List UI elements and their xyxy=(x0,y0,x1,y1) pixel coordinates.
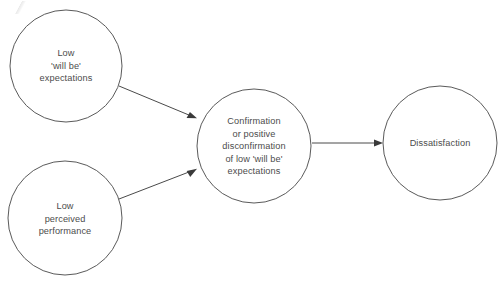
diagram-graphics xyxy=(0,0,499,285)
node-low-perceived-performance[interactable] xyxy=(8,161,122,275)
arrowhead-icon xyxy=(374,140,383,147)
edge-expectations-to-confirmation[interactable] xyxy=(119,86,197,118)
edge-confirmation-to-dissatisfaction[interactable] xyxy=(312,140,383,147)
node-low-will-be-expectations[interactable] xyxy=(10,10,122,122)
arrowhead-icon xyxy=(187,169,197,177)
diagram-canvas: Low 'will be' expectations Low perceived… xyxy=(0,0,499,285)
node-confirmation-or-positive-disconfirmation[interactable] xyxy=(197,89,311,203)
edge-performance-to-confirmation[interactable] xyxy=(119,169,197,199)
node-dissatisfaction[interactable] xyxy=(383,86,497,200)
